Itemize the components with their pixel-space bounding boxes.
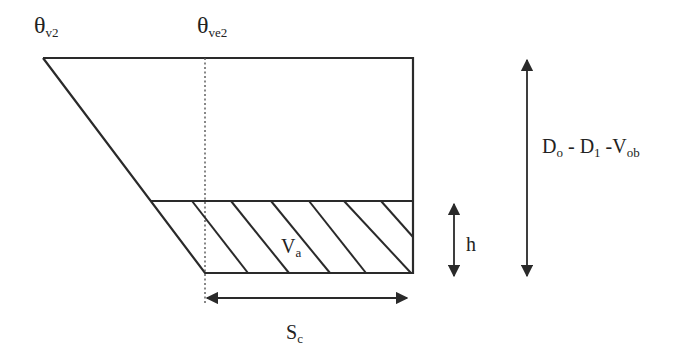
depth-label: Do - D1 -Vob [542, 136, 640, 159]
theta-v2-subscript: v2 [46, 25, 59, 40]
hatching [192, 201, 413, 273]
minus-sign: - [563, 135, 580, 157]
vob-main: V [612, 135, 626, 157]
h-main: h [466, 233, 476, 255]
va-label: Va [281, 236, 301, 259]
diagram-canvas [0, 0, 695, 362]
theta-symbol: θ [197, 12, 209, 38]
theta-symbol: θ [34, 12, 46, 38]
theta-v2-label: θv2 [34, 13, 59, 39]
sc-label: Sc [286, 322, 303, 345]
sc-subscript: c [297, 331, 303, 346]
va-subscript: a [295, 245, 301, 260]
sc-main: S [286, 321, 297, 343]
trapezoid-outline [43, 58, 413, 273]
theta-ve2-label: θve2 [197, 13, 227, 39]
d1-main: D [580, 135, 594, 157]
h-label: h [466, 234, 476, 254]
va-main: V [281, 235, 295, 257]
d0-main: D [542, 135, 556, 157]
minus-sign: - [601, 135, 613, 157]
vob-subscript: ob [627, 145, 640, 160]
theta-ve2-subscript: ve2 [209, 25, 228, 40]
